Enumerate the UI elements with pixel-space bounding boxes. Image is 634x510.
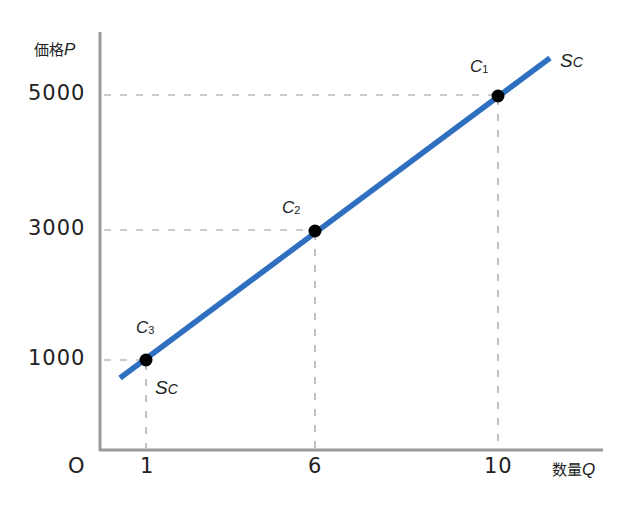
y-axis-title-text: 価格 bbox=[34, 41, 64, 59]
origin-label: O bbox=[68, 454, 86, 478]
x-tick-10: 10 bbox=[484, 454, 513, 478]
x-tick-1: 1 bbox=[140, 454, 154, 478]
label-c3-sub: 3 bbox=[148, 324, 154, 336]
x-tick-6: 6 bbox=[308, 454, 322, 478]
y-tick-3000: 3000 bbox=[28, 216, 85, 240]
label-c2-sub: 2 bbox=[294, 204, 300, 216]
supply-curve-sc bbox=[120, 58, 550, 378]
label-c3-letter: C bbox=[136, 318, 148, 337]
chart-canvas bbox=[0, 0, 634, 510]
point-c2 bbox=[309, 225, 322, 238]
label-c2: C2 bbox=[282, 198, 300, 218]
label-c1-sub: 1 bbox=[482, 63, 488, 75]
label-sc-top: SC bbox=[560, 50, 583, 72]
label-c1-letter: C bbox=[470, 57, 482, 76]
label-sc-bottom-letter: S bbox=[155, 377, 168, 398]
label-sc-bottom-sub: C bbox=[168, 381, 178, 397]
label-sc-bottom: SC bbox=[155, 377, 178, 399]
label-sc-top-sub: C bbox=[573, 54, 583, 70]
label-c3: C3 bbox=[136, 318, 154, 338]
y-axis-variable: P bbox=[64, 40, 75, 59]
x-axis-title-text: 数量 bbox=[552, 461, 582, 479]
y-tick-1000: 1000 bbox=[28, 346, 85, 370]
label-c2-letter: C bbox=[282, 198, 294, 217]
label-sc-top-letter: S bbox=[560, 50, 573, 71]
y-axis-title: 価格P bbox=[34, 38, 75, 60]
point-c1 bbox=[492, 90, 505, 103]
label-c1: C1 bbox=[470, 57, 488, 77]
x-axis-title: 数量Q bbox=[552, 458, 595, 480]
point-c3 bbox=[140, 354, 153, 367]
y-tick-5000: 5000 bbox=[28, 81, 85, 105]
x-axis-variable: Q bbox=[582, 460, 595, 479]
